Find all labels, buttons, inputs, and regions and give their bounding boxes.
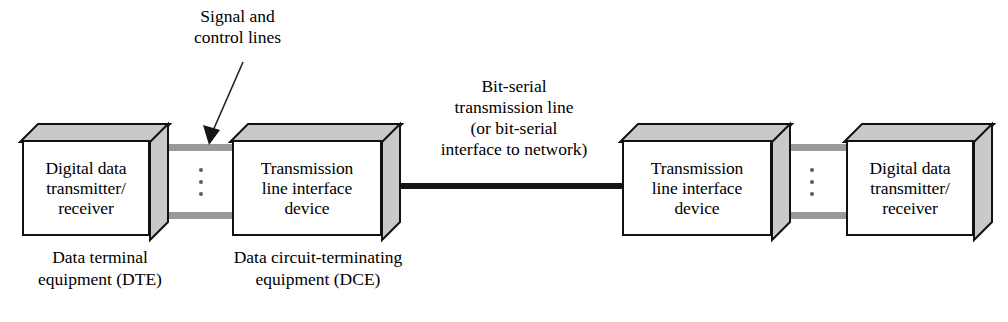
ellipsis-dot (810, 192, 814, 196)
box-front-face: Transmission line interface device (622, 140, 772, 236)
signal-control-lines-label: Signal and control lines (150, 6, 325, 48)
bit-serial-transmission-line (383, 183, 623, 189)
bit-serial-line-label: Bit-serial transmission line (or bit-ser… (398, 76, 630, 160)
ellipsis-dot (199, 180, 203, 184)
box-side-outline (148, 122, 176, 240)
signal-line-ellipsis-left (198, 168, 204, 196)
ellipsis-dot (810, 168, 814, 172)
box-dte-right: Digital data transmitter/ receiver (846, 140, 974, 236)
box-label: Transmission line interface device (257, 158, 358, 218)
box-label: Digital data transmitter/ receiver (866, 158, 955, 218)
ellipsis-dot (199, 168, 203, 172)
caption-dte: Data terminal equipment (DTE) (0, 246, 200, 290)
box-dte-left: Digital data transmitter/ receiver (22, 140, 150, 236)
ellipsis-dot (810, 180, 814, 184)
box-front-face: Digital data transmitter/ receiver (846, 140, 974, 236)
signal-control-lines-arrow (195, 55, 255, 150)
box-label: Digital data transmitter/ receiver (42, 158, 131, 218)
box-label: Transmission line interface device (647, 158, 748, 218)
box-front-face: Transmission line interface device (232, 140, 382, 236)
box-dce-left: Transmission line interface device (232, 140, 382, 236)
box-side-outline (972, 122, 1000, 240)
box-dce-right: Transmission line interface device (622, 140, 772, 236)
box-front-face: Digital data transmitter/ receiver (22, 140, 150, 236)
signal-line-ellipsis-right (809, 168, 815, 196)
network-interface-diagram: Signal and control lines Bit-serial tran… (0, 0, 1008, 322)
ellipsis-dot (199, 192, 203, 196)
box-side-outline (770, 122, 798, 240)
caption-dce: Data circuit-terminating equipment (DCE) (193, 246, 443, 290)
box-side-outline (380, 122, 408, 240)
